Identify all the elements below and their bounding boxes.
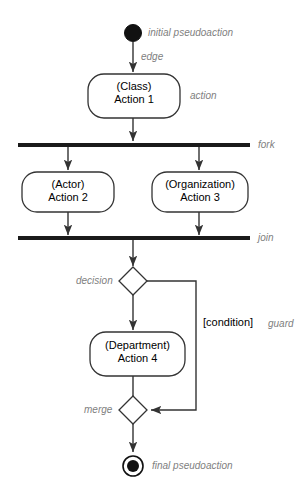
action1-label: (Class) Action 1 <box>88 80 180 106</box>
action3-line2: Action 3 <box>152 191 248 204</box>
final-node-core <box>127 460 139 472</box>
fork-bar <box>18 143 250 147</box>
annotation-join: join <box>258 232 274 244</box>
action2-line1: (Actor) <box>22 178 114 191</box>
annotation-initial-pseudoaction: initial pseudoaction <box>148 27 233 39</box>
decision-node <box>119 267 147 295</box>
annotation-final-pseudoaction: final pseudoaction <box>152 460 233 472</box>
action2-line2: Action 2 <box>22 191 114 204</box>
action3-label: (Organization) Action 3 <box>152 178 248 204</box>
action4-line1: (Department) <box>90 339 185 352</box>
annotation-decision: decision <box>76 275 113 287</box>
action1-line1: (Class) <box>88 80 180 93</box>
action3-line1: (Organization) <box>152 178 248 191</box>
action2-label: (Actor) Action 2 <box>22 178 114 204</box>
annotation-fork: fork <box>258 139 275 151</box>
activity-diagram-canvas: (Class) Action 1 (Actor) Action 2 (Organ… <box>0 0 306 500</box>
initial-node <box>125 25 142 42</box>
diagram-graphics <box>0 0 306 500</box>
action1-line2: Action 1 <box>88 93 180 106</box>
annotation-action: action <box>190 90 217 102</box>
merge-node <box>119 396 147 424</box>
join-bar <box>18 236 250 240</box>
annotation-merge: merge <box>84 404 112 416</box>
action4-line2: Action 4 <box>90 352 185 365</box>
action4-label: (Department) Action 4 <box>90 339 185 365</box>
guard-condition-label: [condition] <box>203 316 253 329</box>
annotation-guard: guard <box>268 318 294 330</box>
annotation-edge: edge <box>141 51 163 63</box>
